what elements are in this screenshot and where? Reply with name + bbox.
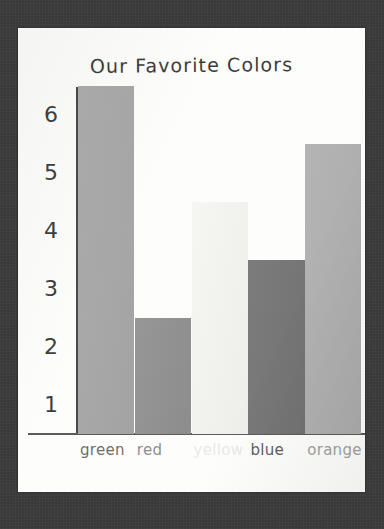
bar-blue [248,260,304,434]
y-tick-label-1: 1 [34,394,68,416]
y-tick-label-2: 2 [34,336,68,358]
x-label-blue: blue [250,440,307,460]
x-label-red: red [137,440,194,460]
y-axis-tick-labels: 654321 [34,87,72,435]
x-label-yellow: yellow [194,440,251,460]
chart-photo-screenshot: Our Favorite Colors 654321 greenredyello… [0,0,384,529]
y-tick-label-5: 5 [34,162,68,184]
x-label-orange: orange [307,440,364,460]
y-tick-label-3: 3 [34,278,68,300]
y-tick-label-6: 6 [34,104,68,126]
bar-green [78,86,134,434]
bar-orange [305,144,361,434]
x-axis-category-labels: greenredyellowblueorange [78,440,368,466]
x-label-green: green [80,440,137,460]
bar-yellow [192,202,248,434]
chart-title: Our Favorite Colors [18,52,365,77]
chart-paper: Our Favorite Colors 654321 greenredyello… [18,28,365,492]
y-tick-label-4: 4 [34,220,68,242]
bar-red [135,318,191,434]
bar-series [78,87,362,434]
